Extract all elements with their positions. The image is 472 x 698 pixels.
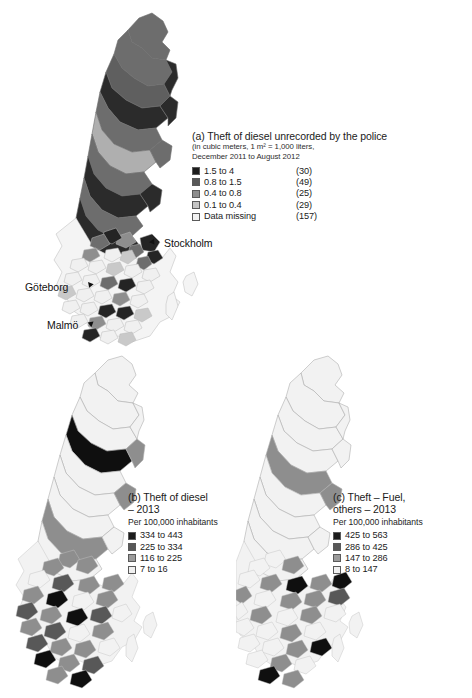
legend-label: 0.1 to 0.4 bbox=[204, 200, 288, 211]
legend-item: 425 to 563 bbox=[333, 530, 453, 541]
legend-swatch-icon bbox=[128, 554, 136, 562]
panel-b-theft-of-diesel-2013: (b) Theft of diesel – 2013 Per 100,000 i… bbox=[0, 348, 236, 698]
legend-item: 225 to 334 bbox=[128, 541, 240, 552]
legend-label: 286 to 425 bbox=[345, 542, 388, 553]
legend-item: Data missing (157) bbox=[192, 211, 402, 222]
panel-c-unit: Per 100,000 inhabitants bbox=[333, 517, 453, 527]
legend-label: 8 to 147 bbox=[345, 564, 378, 575]
legend-count: (30) bbox=[288, 166, 312, 177]
legend-label: 425 to 563 bbox=[345, 530, 388, 541]
legend-item: 116 to 225 bbox=[128, 553, 240, 564]
legend-item: 1.5 to 4 (30) bbox=[192, 165, 402, 176]
legend-swatch-icon bbox=[333, 566, 341, 574]
panel-a-theft-of-diesel-unrecorded: Stockholm Göteborg Malmö (a) Theft of di… bbox=[0, 0, 472, 348]
legend-panel-c: (c) Theft – Fuel, others – 2013 Per 100,… bbox=[333, 491, 453, 575]
panel-a-subtitle-line2: December 2011 to August 2012 bbox=[192, 152, 402, 162]
legend-swatch-icon bbox=[333, 554, 341, 562]
legend-swatch-icon bbox=[333, 543, 341, 551]
legend-swatch-icon bbox=[192, 213, 200, 221]
panel-b-legend-items: 334 to 443 225 to 334 116 to 225 7 to 16 bbox=[128, 530, 240, 576]
legend-count: (157) bbox=[288, 211, 317, 222]
legend-count: (25) bbox=[288, 188, 312, 199]
legend-label: 116 to 225 bbox=[140, 553, 182, 564]
city-label-stockholm: Stockholm bbox=[164, 237, 213, 249]
panel-b-title-line1: (b) Theft of diesel bbox=[128, 491, 240, 503]
city-label-malmo: Malmö bbox=[47, 319, 78, 331]
panel-b-title-line2: – 2013 bbox=[128, 503, 240, 515]
legend-item: 0.8 to 1.5 (49) bbox=[192, 177, 402, 188]
legend-item: 0.4 to 0.8 (25) bbox=[192, 188, 402, 199]
legend-item: 334 to 443 bbox=[128, 530, 240, 541]
panel-c-legend-items: 425 to 563 286 to 425 147 to 286 8 to 14… bbox=[333, 530, 453, 576]
legend-label: 0.4 to 0.8 bbox=[204, 188, 288, 199]
legend-panel-b: (b) Theft of diesel – 2013 Per 100,000 i… bbox=[128, 491, 240, 575]
legend-count: (49) bbox=[288, 177, 312, 188]
legend-label: 7 to 16 bbox=[140, 564, 168, 575]
legend-label: 0.8 to 1.5 bbox=[204, 177, 288, 188]
map-a-north-regions bbox=[76, 13, 178, 256]
panel-c-title-line2: others – 2013 bbox=[333, 503, 453, 515]
legend-item: 147 to 286 bbox=[333, 553, 453, 564]
city-label-goteborg: Göteborg bbox=[25, 281, 68, 293]
legend-swatch-icon bbox=[192, 201, 200, 209]
legend-swatch-icon bbox=[192, 190, 200, 198]
legend-swatch-icon bbox=[128, 543, 136, 551]
legend-label: 147 to 286 bbox=[345, 553, 388, 564]
legend-label: 1.5 to 4 bbox=[204, 166, 288, 177]
legend-item: 7 to 16 bbox=[128, 564, 240, 575]
legend-swatch-icon bbox=[128, 532, 136, 540]
legend-swatch-icon bbox=[333, 532, 341, 540]
legend-swatch-icon bbox=[128, 566, 136, 574]
legend-label: Data missing bbox=[204, 211, 288, 222]
panel-a-legend-items: 1.5 to 4 (30) 0.8 to 1.5 (49) 0.4 to 0.8… bbox=[192, 165, 402, 222]
malmo-pointer-icon bbox=[88, 322, 95, 328]
legend-panel-a: (a) Theft of diesel unrecorded by the po… bbox=[192, 130, 402, 222]
legend-item: 286 to 425 bbox=[333, 541, 453, 552]
legend-swatch-icon bbox=[192, 167, 200, 175]
panel-a-subtitle-line1: (in cubic meters, 1 m² = 1,000 liters, bbox=[192, 142, 402, 152]
legend-item: 8 to 147 bbox=[333, 564, 453, 575]
panel-c-title-line1: (c) Theft – Fuel, bbox=[333, 491, 453, 503]
figure-root: Stockholm Göteborg Malmö (a) Theft of di… bbox=[0, 0, 472, 698]
legend-label: 334 to 443 bbox=[140, 530, 183, 541]
panel-a-title: (a) Theft of diesel unrecorded by the po… bbox=[192, 130, 402, 142]
legend-swatch-icon bbox=[192, 178, 200, 186]
legend-count: (29) bbox=[288, 200, 312, 211]
legend-label: 225 to 334 bbox=[140, 542, 183, 553]
panel-b-unit: Per 100,000 inhabitants bbox=[128, 517, 240, 527]
legend-item: 0.1 to 0.4 (29) bbox=[192, 199, 402, 210]
panel-c-theft-fuel-others-2013: (c) Theft – Fuel, others – 2013 Per 100,… bbox=[236, 348, 472, 698]
